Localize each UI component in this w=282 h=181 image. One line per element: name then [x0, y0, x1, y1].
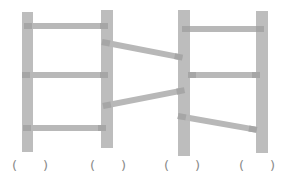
- connector-upper-slanted: [101, 39, 183, 61]
- post-4: [256, 11, 268, 153]
- open-paren: (: [90, 158, 95, 173]
- rung-1-top: [24, 23, 108, 29]
- answer-slot-3[interactable]: ( ): [162, 156, 212, 174]
- answer-slot-1[interactable]: ( ): [10, 156, 60, 174]
- open-paren: (: [239, 158, 244, 173]
- rung-1-bottom: [23, 125, 106, 131]
- close-paren: ): [121, 158, 126, 173]
- rung-2-top: [182, 26, 264, 32]
- close-paren: ): [270, 158, 275, 173]
- rung-2-middle: [188, 72, 260, 78]
- connector-lower-slanted: [102, 87, 185, 109]
- open-paren: (: [164, 158, 169, 173]
- answer-slot-2[interactable]: ( ): [88, 156, 138, 174]
- close-paren: ): [43, 158, 48, 173]
- rung-1-middle: [22, 72, 108, 78]
- open-paren: (: [12, 158, 17, 173]
- answer-slot-4[interactable]: ( ): [237, 156, 282, 174]
- post-1: [22, 12, 33, 152]
- close-paren: ): [195, 158, 200, 173]
